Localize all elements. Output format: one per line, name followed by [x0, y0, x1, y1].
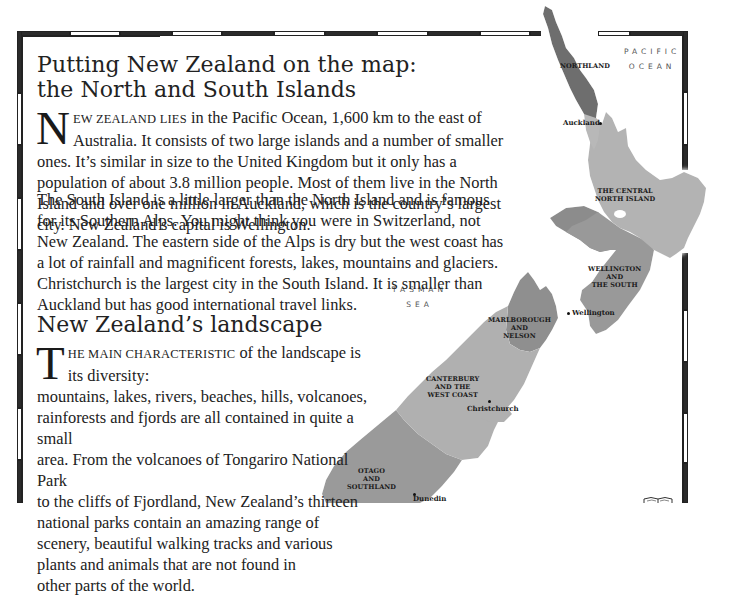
- label-line: WELLINGTON: [588, 265, 641, 273]
- label-line: THE CENTRAL: [598, 187, 653, 195]
- page-title-line1: Putting New Zealand on the map:: [37, 52, 417, 77]
- frame-right-border-lower: [683, 253, 688, 503]
- text-line: scenery, beautiful walking tracks and va…: [37, 534, 333, 553]
- label-line: NORTH ISLAND: [595, 195, 655, 203]
- text-line: other parts of the world.: [37, 576, 195, 595]
- label-line: CANTERBURY: [426, 375, 479, 383]
- section-heading-landscape: New Zealand’s landscape: [37, 312, 322, 337]
- label-line: WEST COAST: [427, 391, 477, 399]
- label-line: AND: [606, 273, 623, 281]
- text-line: to the cliffs of Fjordland, New Zealand’…: [37, 492, 358, 511]
- text-line: plants and animals that are not found in: [37, 555, 296, 574]
- region-canterbury-west-coast: [396, 306, 540, 460]
- label-marlborough-nelson: MARLBOROUGH AND NELSON: [488, 316, 551, 340]
- text-line: mountains, lakes, rivers, beaches, hills…: [37, 387, 367, 406]
- lead-smallcaps: EW ZEALAND LIES: [73, 112, 187, 126]
- city-dot-dunedin: [413, 493, 416, 496]
- book-icon: [643, 496, 673, 503]
- label-line: AND THE: [435, 383, 471, 391]
- frame-right-border-upper: [683, 31, 688, 170]
- label-line: AND: [511, 324, 528, 332]
- city-dot-christchurch: [488, 400, 491, 403]
- city-wellington: Wellington: [572, 308, 615, 317]
- frame-right-inner-line-upper: [682, 36, 683, 170]
- paragraph-landscape: THE MAIN CHARACTERISTIC of the landscape…: [37, 342, 367, 596]
- city-auckland: Auckland: [563, 118, 600, 127]
- label-canterbury-west-coast: CANTERBURY AND THE WEST COAST: [426, 375, 479, 399]
- lead-smallcaps: HE MAIN CHARACTERISTIC: [68, 347, 236, 361]
- label-northland: NORTHLAND: [560, 62, 610, 70]
- text-line: rainforests and fjords are all contained…: [37, 408, 354, 448]
- region-auckland: [584, 114, 600, 150]
- dropcap-n: N: [36, 109, 70, 147]
- frame-right-inner-line-lower: [682, 253, 683, 503]
- label-wellington-south: WELLINGTON AND THE SOUTH: [588, 265, 641, 289]
- label-pacific-ocean: PACIFIC OCEAN: [624, 44, 680, 74]
- text-line: national parks contain an amazing range …: [37, 513, 319, 532]
- page-title-line2: the North and South Islands: [37, 77, 356, 102]
- pacific-label-line2: OCEAN: [629, 62, 676, 71]
- region-central-north-island: [588, 112, 706, 258]
- city-christchurch: Christchurch: [467, 404, 519, 413]
- region-marlborough-nelson: [506, 272, 558, 352]
- text-line: area. From the volcanoes of Tongariro Na…: [37, 450, 348, 490]
- region-northland: [543, 6, 598, 122]
- frame-top-right-border: [598, 31, 688, 36]
- label-line: MARLBOROUGH: [488, 316, 551, 324]
- frame-left-inner-line: [22, 36, 23, 503]
- banks-peninsula: [478, 404, 512, 422]
- frame-top-inner-line: [17, 36, 160, 37]
- city-dot-auckland: [599, 122, 602, 125]
- region-wellington-south: [566, 212, 654, 334]
- city-dot-wellington: [567, 312, 570, 315]
- pacific-label-line1: PACIFIC: [624, 47, 680, 56]
- label-line: NELSON: [503, 332, 535, 340]
- city-dunedin: Dunedin: [413, 494, 446, 503]
- label-line: THE SOUTH: [592, 281, 638, 289]
- page-title: Putting New Zealand on the map: the Nort…: [37, 52, 497, 102]
- region-wellington-west: [550, 206, 620, 252]
- dropcap-t: T: [36, 344, 65, 382]
- label-central-north-island: THE CENTRAL NORTH ISLAND: [595, 187, 655, 203]
- paragraph-south-island: The South Island is a little larger than…: [37, 189, 507, 315]
